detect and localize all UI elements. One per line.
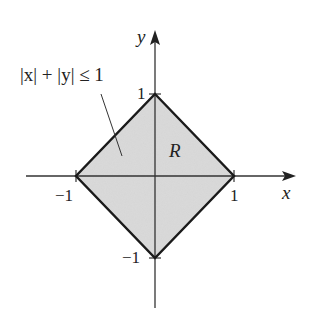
y-axis-label: y <box>137 27 145 46</box>
region-label: R <box>169 141 181 160</box>
diamond-region-diagram: y x 1 −1 −1 1 R |x| + |y| ≤ 1 <box>0 0 313 318</box>
inequality-label: |x| + |y| ≤ 1 <box>20 65 104 84</box>
tick-label-y-pos: 1 <box>137 85 146 102</box>
tick-label-y-neg: −1 <box>122 249 140 266</box>
tick-label-x-neg: −1 <box>55 187 73 204</box>
x-axis-label: x <box>282 183 290 202</box>
tick-label-x-pos: 1 <box>230 187 239 204</box>
diagram-canvas <box>0 0 313 318</box>
